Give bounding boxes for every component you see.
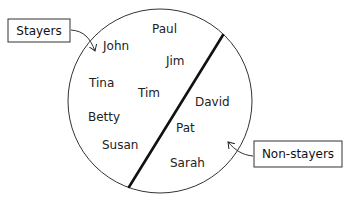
name-susan: Susan bbox=[102, 138, 138, 152]
name-john: John bbox=[102, 39, 129, 53]
diagram-canvas: Stayers Non-stayers Paul John Jim Tina T… bbox=[0, 0, 355, 204]
stayers-arrow-icon bbox=[71, 30, 95, 51]
name-sarah: Sarah bbox=[170, 156, 205, 170]
name-pat: Pat bbox=[176, 121, 195, 135]
non-stayers-arrow-icon bbox=[228, 142, 253, 156]
name-paul: Paul bbox=[152, 22, 177, 36]
non-stayers-label-box: Non-stayers bbox=[254, 141, 342, 167]
name-jim: Jim bbox=[165, 54, 185, 68]
name-betty: Betty bbox=[88, 110, 120, 124]
stayers-label-box: Stayers bbox=[8, 19, 70, 42]
name-david: David bbox=[195, 95, 230, 109]
name-tina: Tina bbox=[88, 76, 114, 90]
name-tim: Tim bbox=[137, 86, 160, 100]
stayers-label: Stayers bbox=[16, 24, 61, 38]
non-stayers-label: Non-stayers bbox=[262, 147, 334, 161]
